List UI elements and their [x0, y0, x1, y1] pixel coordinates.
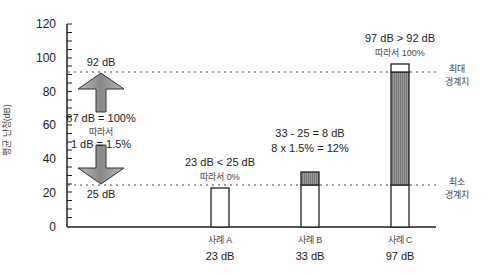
category-c-value: 97 dB: [386, 250, 415, 262]
category-c-label: 사례 C: [388, 234, 413, 246]
case-c-annotation-2: 따라서 100%: [375, 47, 425, 59]
y-tick: 0: [26, 220, 56, 234]
y-tick: 20: [26, 186, 56, 200]
case-a-annotation-1: 23 dB < 25 dB: [185, 156, 255, 168]
y-tick: 60: [26, 118, 56, 132]
bar-case-a: [211, 188, 229, 227]
lower-fence-label-2: 경계치: [445, 189, 469, 201]
category-b-label: 사례 B: [298, 234, 323, 246]
upper-fence-label-2: 경계치: [445, 76, 469, 88]
arrow-line2: 따라서: [89, 126, 113, 138]
arrow-bottom-label: 25 dB: [87, 188, 116, 200]
y-tick: 80: [26, 85, 56, 99]
bar-case-b: [301, 172, 319, 227]
category-a-label: 사례 A: [208, 234, 233, 246]
category-a-value: 23 dB: [206, 250, 235, 262]
y-tick: 40: [26, 152, 56, 166]
y-tick: 100: [26, 51, 56, 65]
case-b-annotation-2: 8 x 1.5% = 12%: [271, 142, 348, 154]
arrow-line1: 67 dB = 100%: [66, 112, 135, 124]
y-axis-label: 평균 난청(dB): [0, 104, 13, 156]
y-tick: 120: [26, 17, 56, 31]
y-axis: [67, 24, 72, 227]
upper-fence-label-1: 최대: [449, 63, 465, 75]
case-b-annotation-1: 33 - 25 = 8 dB: [275, 127, 344, 139]
case-a-annotation-2: 따라서 0%: [200, 171, 240, 183]
arrow-line3: 1 dB = 1.5%: [71, 138, 131, 150]
bar-case-c: [391, 64, 409, 227]
lower-fence-label-1: 최소: [449, 176, 465, 188]
arrow-top-label: 92 dB: [87, 56, 116, 68]
case-c-annotation-1: 97 dB > 92 dB: [365, 32, 435, 44]
category-b-value: 33 dB: [296, 250, 325, 262]
